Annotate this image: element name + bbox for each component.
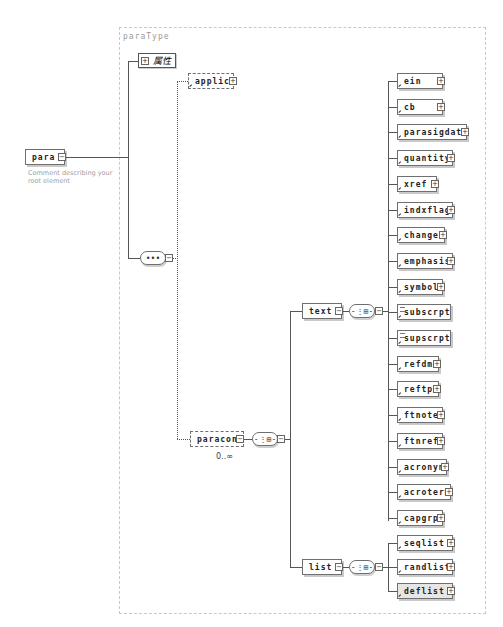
reference-icon — [399, 314, 403, 318]
connector — [388, 543, 397, 544]
expand-icon[interactable]: + — [447, 587, 455, 595]
element-label: acronym — [404, 463, 445, 472]
expand-icon[interactable]: + — [447, 539, 455, 547]
connector — [388, 81, 397, 82]
connector — [388, 184, 397, 185]
reference-icon — [399, 109, 403, 113]
element-label: list — [309, 563, 332, 572]
connector — [290, 311, 302, 312]
choice-compositor[interactable]: -⋮⊞- — [252, 432, 278, 446]
element-quantity[interactable]: quantity — [397, 150, 453, 166]
expand-icon[interactable]: + — [447, 257, 455, 265]
expand-icon[interactable]: + — [439, 231, 447, 239]
reference-icon — [399, 83, 403, 87]
reference-icon — [399, 263, 403, 267]
expand-icon[interactable]: + — [431, 180, 439, 188]
element-label: ftnref — [404, 437, 439, 446]
collapse-icon[interactable]: − — [58, 153, 66, 161]
element-label: acroterm — [404, 488, 451, 497]
comment-line: root element — [28, 177, 112, 185]
connector — [388, 567, 397, 568]
expand-icon[interactable]: + — [447, 206, 455, 214]
optional-connector — [177, 439, 190, 440]
expand-icon[interactable]: + — [433, 360, 441, 368]
attributes-label: 属性 — [153, 54, 171, 67]
collapse-icon[interactable]: − — [236, 435, 244, 443]
reference-icon — [190, 83, 194, 87]
expand-icon[interactable]: + — [433, 385, 441, 393]
reference-icon — [399, 134, 403, 138]
element-label: indxflag — [404, 206, 451, 215]
element-change[interactable]: change — [397, 227, 445, 243]
collapse-icon[interactable]: − — [277, 435, 285, 443]
reference-icon — [399, 289, 403, 293]
element-label: subscrpt — [404, 308, 451, 317]
element-label: randlist — [404, 563, 451, 572]
connector — [388, 158, 397, 159]
expand-icon[interactable]: + — [141, 57, 149, 65]
element-label: reftp — [404, 385, 433, 394]
collapse-icon[interactable]: − — [375, 307, 383, 315]
collapse-icon[interactable]: − — [165, 254, 173, 262]
element-label: para — [32, 153, 55, 162]
reference-icon — [399, 443, 403, 447]
choice-compositor[interactable]: -⋮⊞- — [349, 560, 375, 574]
reference-icon — [399, 494, 403, 498]
simple-type-icon — [400, 333, 405, 338]
expand-icon[interactable]: + — [229, 77, 237, 85]
connector — [244, 439, 252, 440]
simple-type-icon — [400, 307, 405, 312]
collapse-icon[interactable]: − — [335, 563, 343, 571]
connector — [388, 107, 397, 108]
element-label: parasigdate — [404, 128, 468, 137]
element-label: paracon — [197, 435, 238, 444]
element-emphasis[interactable]: emphasis — [397, 253, 453, 269]
reference-icon — [399, 160, 403, 164]
element-label: quantity — [404, 154, 451, 163]
element-subscrpt[interactable]: subscrpt — [397, 304, 451, 320]
reference-icon — [399, 186, 403, 190]
element-label: ein — [404, 77, 421, 86]
optional-connector — [177, 81, 178, 439]
connector — [388, 287, 397, 288]
element-label: text — [309, 307, 332, 316]
element-randlist[interactable]: randlist — [397, 559, 453, 575]
collapse-icon[interactable]: − — [335, 307, 343, 315]
expand-icon[interactable]: + — [437, 77, 445, 85]
element-label: refdm — [404, 360, 433, 369]
expand-icon[interactable]: + — [461, 128, 469, 136]
element-indxflag[interactable]: indxflag — [397, 202, 453, 218]
occurrence-label: 0..∞ — [216, 452, 233, 461]
connector — [388, 389, 397, 390]
choice-compositor[interactable]: -⋮⊞- — [349, 304, 375, 318]
expand-icon[interactable]: + — [447, 563, 455, 571]
sequence-compositor[interactable]: ••• — [140, 251, 166, 265]
element-label: capgrp — [404, 514, 439, 523]
connector — [388, 441, 397, 442]
element-deflist[interactable]: deflist — [397, 583, 453, 599]
reference-icon — [399, 469, 403, 473]
connector — [388, 132, 397, 133]
element-acroterm[interactable]: acroterm — [397, 484, 451, 500]
expand-icon[interactable]: + — [437, 514, 445, 522]
reference-icon — [399, 417, 403, 421]
element-label: cb — [404, 103, 416, 112]
expand-icon[interactable]: + — [441, 463, 449, 471]
expand-icon[interactable]: + — [437, 103, 445, 111]
reference-icon — [399, 593, 403, 597]
element-supscrpt[interactable]: supscrpt — [397, 330, 451, 346]
connector — [388, 415, 397, 416]
reference-icon — [399, 366, 403, 370]
element-applic[interactable]: applic — [188, 73, 234, 89]
expand-icon[interactable]: + — [447, 154, 455, 162]
expand-icon[interactable]: + — [437, 283, 445, 291]
expand-icon[interactable]: + — [445, 488, 453, 496]
element-acronym[interactable]: acronym — [397, 459, 447, 475]
element-seqlist[interactable]: seqlist — [397, 535, 453, 551]
collapse-icon[interactable]: − — [375, 563, 383, 571]
expand-icon[interactable]: + — [437, 437, 445, 445]
expand-icon[interactable]: + — [437, 411, 445, 419]
attributes-group[interactable]: + 属性 — [138, 53, 176, 68]
connector — [290, 567, 302, 568]
element-parasigdate[interactable]: parasigdate — [397, 124, 467, 140]
